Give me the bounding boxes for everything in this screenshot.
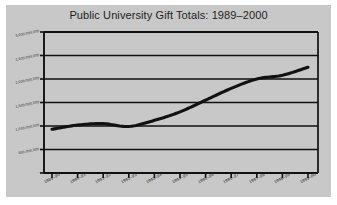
chart-figure: Public University Gift Totals: 1989–2000… — [0, 0, 337, 205]
gridlines — [44, 32, 318, 173]
plot-area — [6, 5, 331, 197]
y-axis-tick-label: - — [37, 170, 39, 174]
chart-panel: Public University Gift Totals: 1989–2000… — [6, 5, 331, 197]
data-series-line — [52, 67, 308, 129]
